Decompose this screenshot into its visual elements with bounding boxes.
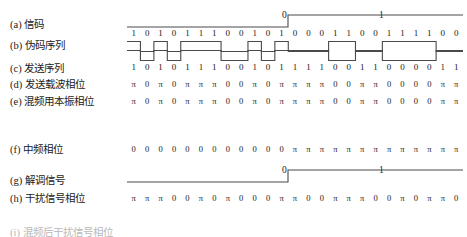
dsss-waveform-figure: (a) 信码 0 1 (b) 伪码序列 1 0 1 0 1 1 1 0 0 1 …: [0, 0, 467, 237]
phase-symbol: 0: [194, 144, 207, 155]
local-osc-phase-symbols: π 0 π 0 π π π 0 0 π 0 π π π π 0 0 π π 0 …: [127, 96, 463, 107]
phase-symbol: π: [409, 144, 422, 155]
phase-symbol: 0: [235, 144, 248, 155]
phase-symbol: π: [355, 144, 368, 155]
pn-digit: 1: [194, 28, 207, 39]
phase-symbol: π: [342, 193, 355, 204]
phase-symbol: π: [181, 79, 194, 90]
tx-sequence-digits: 1 0 1 0 1 1 1 0 0 1 0 1 1 1 1 0 0 1 1 0 …: [127, 62, 463, 73]
phase-symbol: π: [369, 96, 382, 107]
phase-symbol: π: [315, 79, 328, 90]
phase-symbol: π: [221, 193, 234, 204]
phase-symbol: 0: [140, 96, 153, 107]
phase-symbol: π: [208, 79, 221, 90]
pn-digit: 0: [167, 28, 180, 39]
pn-digit: 1: [248, 28, 261, 39]
phase-symbol: 0: [235, 193, 248, 204]
phase-symbol: π: [355, 79, 368, 90]
phase-symbol: π: [194, 193, 207, 204]
phase-symbol: 0: [235, 79, 248, 90]
phase-symbol: 0: [382, 193, 395, 204]
pn-digit: 0: [235, 28, 248, 39]
phase-symbol: 0: [261, 144, 274, 155]
phase-symbol: 0: [396, 96, 409, 107]
tx-digit: 1: [154, 62, 167, 73]
tx-digit: 0: [221, 62, 234, 73]
tx-digit: 1: [275, 62, 288, 73]
pn-digit: 1: [396, 28, 409, 39]
phase-symbol: π: [248, 96, 261, 107]
phase-symbol: π: [315, 96, 328, 107]
pn-digit: 0: [221, 28, 234, 39]
pn-digit: 0: [450, 28, 463, 39]
tx-digit: 0: [396, 62, 409, 73]
phase-symbol: 0: [127, 144, 140, 155]
phase-symbol: π: [154, 79, 167, 90]
signal-bit-1: 1: [379, 10, 384, 21]
tx-digit: 1: [127, 62, 140, 73]
if-phase-symbols: 0 0 0 0 0 0 0 0 0 0 0 0 π π π π π π π π …: [127, 144, 463, 155]
phase-symbol: 0: [208, 193, 221, 204]
phase-symbol: 0: [261, 96, 274, 107]
phase-symbol: 0: [423, 79, 436, 90]
phase-symbol: π: [369, 79, 382, 90]
tx-digit: 0: [409, 62, 422, 73]
phase-symbol: 0: [382, 79, 395, 90]
phase-symbol: π: [355, 193, 368, 204]
phase-symbol: π: [436, 79, 449, 90]
phase-symbol: π: [275, 79, 288, 90]
tx-digit: 0: [140, 62, 153, 73]
phase-symbol: π: [181, 96, 194, 107]
pn-digit: 0: [355, 28, 368, 39]
phase-symbol: 0: [235, 96, 248, 107]
phase-symbol: 0: [342, 96, 355, 107]
row-label-tx-carrier-phase: (d) 发送载波相位: [10, 78, 122, 91]
pn-digit: 1: [382, 28, 395, 39]
phase-symbol: π: [315, 144, 328, 155]
pn-digit: 0: [288, 28, 301, 39]
phase-symbol: π: [154, 193, 167, 204]
phase-symbol: 0: [221, 96, 234, 107]
pn-digit: 0: [302, 28, 315, 39]
phase-symbol: 0: [302, 193, 315, 204]
phase-symbol: 0: [315, 193, 328, 204]
demodulated-bit-1: 1: [379, 165, 384, 176]
phase-symbol: π: [127, 193, 140, 204]
tx-digit: 1: [450, 62, 463, 73]
interference-phase-symbols: π π π 0 0 π 0 π 0 0 0 π π 0 0 π π π 0 0 …: [127, 193, 463, 204]
row-label-if-phase: (f) 中频相位: [10, 143, 122, 156]
phase-symbol: 0: [167, 193, 180, 204]
row-demodulated-signal: (g) 解调信号 0 1: [0, 165, 467, 191]
phase-symbol: π: [208, 96, 221, 107]
pn-sequence-digits: 1 0 1 0 1 1 1 0 0 1 0 1 0 0 0 1 1 0 0 1 …: [127, 28, 463, 39]
phase-symbol: π: [450, 79, 463, 90]
tx-digit: 1: [194, 62, 207, 73]
pn-digit: 0: [369, 28, 382, 39]
pn-digit: 1: [181, 28, 194, 39]
pn-digit: 1: [208, 28, 221, 39]
phase-symbol: π: [329, 144, 342, 155]
tx-digit: 0: [423, 62, 436, 73]
phase-symbol: 0: [329, 96, 342, 107]
phase-symbol: 0: [261, 79, 274, 90]
pn-digit: 0: [140, 28, 153, 39]
row-label-pn-sequence: (b) 伪码序列: [10, 39, 122, 52]
phase-symbol: π: [329, 193, 342, 204]
phase-symbol: 0: [396, 79, 409, 90]
phase-symbol: 0: [181, 144, 194, 155]
pn-digit: 0: [315, 28, 328, 39]
phase-symbol: 0: [409, 79, 422, 90]
pn-digit: 1: [342, 28, 355, 39]
phase-symbol: π: [450, 144, 463, 155]
tx-digit: 0: [235, 62, 248, 73]
phase-symbol: π: [396, 193, 409, 204]
phase-symbol: π: [275, 193, 288, 204]
phase-symbol: π: [423, 193, 436, 204]
row-label-interference-phase: (h) 干扰信号相位: [10, 192, 122, 205]
phase-symbol: π: [396, 144, 409, 155]
phase-symbol: π: [288, 96, 301, 107]
demodulated-bit-0: 0: [282, 165, 287, 176]
phase-symbol: 0: [140, 79, 153, 90]
phase-symbol: π: [127, 96, 140, 107]
phase-symbol: π: [127, 79, 140, 90]
